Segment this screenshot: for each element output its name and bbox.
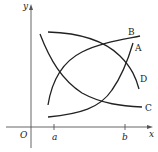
origin-label: O — [20, 130, 28, 140]
y-axis-arrow-icon — [29, 4, 33, 10]
curve-d — [48, 32, 139, 89]
curve-label-a: A — [134, 43, 142, 53]
curve-b — [48, 36, 140, 105]
axes — [6, 4, 153, 148]
curve-label-d: D — [140, 74, 147, 84]
curve-a — [48, 43, 133, 117]
tick-label-a: a — [52, 132, 57, 142]
diagram-canvas: y x O a b A B C D — [0, 0, 158, 152]
curve-c — [40, 34, 142, 107]
y-axis-label: y — [22, 1, 29, 11]
x-axis-label: x — [149, 129, 154, 139]
curves — [40, 32, 142, 117]
labels: y x O a b A B C D — [20, 1, 154, 142]
tick-label-b: b — [122, 132, 128, 142]
curve-label-c: C — [145, 103, 152, 113]
curve-label-b: B — [128, 27, 135, 37]
